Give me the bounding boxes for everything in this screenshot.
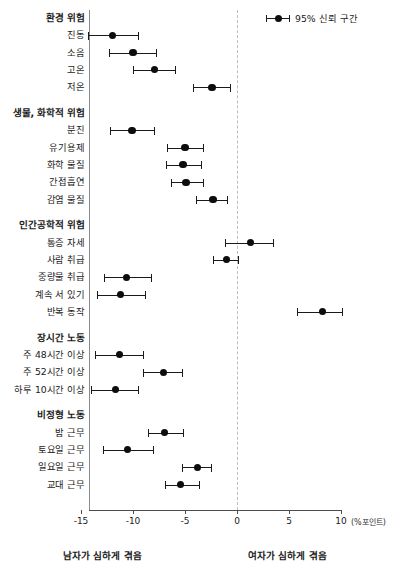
ci-row (89, 467, 402, 468)
ci-lower-cap (167, 144, 168, 152)
ci-upper-cap (154, 127, 155, 135)
ci-row (89, 87, 402, 88)
ci-upper-cap (138, 32, 139, 40)
x-axis: (%포인트) -15-10-50510 (89, 510, 402, 530)
x-tick (341, 510, 342, 514)
row-label: 통증 자세 (47, 237, 85, 248)
ci-upper-cap (201, 161, 202, 169)
x-tick (81, 510, 82, 514)
row-label: 화학 물질 (47, 159, 85, 170)
ci-upper-cap (183, 429, 184, 437)
ci-row (89, 182, 402, 183)
ci-row (89, 165, 402, 166)
ci-row (89, 243, 402, 244)
ci-upper-cap (227, 196, 228, 204)
point-estimate-marker (124, 446, 131, 453)
ci-row (89, 148, 402, 149)
legend-label: 95% 신뢰 구간 (295, 11, 358, 25)
ci-upper-cap (151, 274, 152, 282)
ci-upper-cap (238, 256, 239, 264)
confidence-interval-marker-icon (266, 13, 290, 23)
point-estimate-marker (179, 161, 186, 168)
ci-lower-cap (110, 127, 111, 135)
row-label-column: 환경 위험진동소음고온저온생물, 화학적 위험분진유기용제화학 물질간접흡연감염… (0, 0, 85, 573)
ci-upper-cap (203, 144, 204, 152)
footnote-right: 여자가 심하게 겪음 (248, 548, 327, 562)
ci-lower-cap (104, 274, 105, 282)
row-label: 분진 (67, 124, 85, 135)
ci-lower-cap (165, 481, 166, 489)
ci-upper-cap (273, 239, 274, 247)
ci-lower-cap (97, 291, 98, 299)
point-estimate-marker (109, 32, 116, 39)
row-label: 반복 동작 (47, 306, 85, 317)
point-estimate-marker (151, 66, 158, 73)
row-label: 진동 (67, 29, 85, 40)
point-estimate-marker (223, 256, 230, 263)
x-tick (185, 510, 186, 514)
ci-lower-cap (213, 256, 214, 264)
group-header-5: 비정형 노동 (37, 409, 85, 420)
point-estimate-marker (182, 179, 189, 186)
x-tick (237, 510, 238, 514)
point-estimate-marker (247, 239, 254, 246)
row-label: 일요일 근무 (38, 461, 85, 472)
ci-lower-cap (196, 196, 197, 204)
ci-lower-cap (95, 351, 96, 359)
ci-row (89, 450, 402, 451)
ci-row (89, 35, 402, 36)
ci-lower-cap (225, 239, 226, 247)
point-estimate-marker (116, 351, 123, 358)
ci-upper-cap (211, 464, 212, 472)
ci-upper-cap (156, 49, 157, 57)
ci-row (89, 295, 402, 296)
ci-row (89, 130, 402, 131)
point-estimate-marker (129, 49, 136, 56)
x-tick-label: 0 (234, 516, 240, 526)
ci-lower-cap (166, 161, 167, 169)
plot-area (89, 10, 402, 510)
x-tick (289, 510, 290, 514)
row-label: 중량물 취급 (38, 271, 85, 282)
row-label: 하루 10시간 이상 (14, 384, 85, 395)
legend: 95% 신뢰 구간 (266, 11, 358, 25)
ci-upper-cap (342, 308, 343, 316)
ci-row (89, 260, 402, 261)
ci-lower-cap (193, 84, 194, 92)
ci-row (89, 70, 402, 71)
row-label: 소음 (67, 47, 85, 58)
point-estimate-marker (209, 196, 216, 203)
x-tick-label: -5 (181, 516, 190, 526)
ci-lower-cap (91, 386, 92, 394)
ci-upper-cap (182, 369, 183, 377)
x-tick-label: 10 (335, 516, 346, 526)
ci-upper-cap (203, 179, 204, 187)
x-axis-line (89, 510, 342, 511)
ci-upper-cap (199, 481, 200, 489)
ci-row (89, 312, 402, 313)
ci-upper-cap (138, 386, 139, 394)
ci-row (89, 433, 402, 434)
point-estimate-marker (161, 429, 168, 436)
point-estimate-marker (208, 84, 215, 91)
row-label: 간접흡연 (49, 176, 85, 187)
point-estimate-marker (160, 369, 167, 376)
ci-lower-cap (182, 464, 183, 472)
ci-upper-cap (230, 84, 231, 92)
x-tick (133, 510, 134, 514)
ci-lower-cap (109, 49, 110, 57)
row-label: 유기용제 (49, 142, 85, 153)
point-estimate-marker (117, 291, 124, 298)
point-estimate-marker (181, 144, 188, 151)
x-tick-label: 5 (286, 516, 292, 526)
point-estimate-marker (128, 127, 135, 134)
row-label: 밤 근무 (55, 427, 85, 438)
ci-lower-cap (133, 66, 134, 74)
group-header-4: 장시간 노동 (37, 332, 85, 343)
footnote-left: 남자가 심하게 겪음 (63, 548, 142, 562)
forest-plot: 환경 위험진동소음고온저온생물, 화학적 위험분진유기용제화학 물질간접흡연감염… (0, 0, 402, 573)
ci-upper-cap (143, 351, 144, 359)
x-tick-label: -15 (74, 516, 89, 526)
ci-lower-cap (148, 429, 149, 437)
ci-lower-cap (297, 308, 298, 316)
